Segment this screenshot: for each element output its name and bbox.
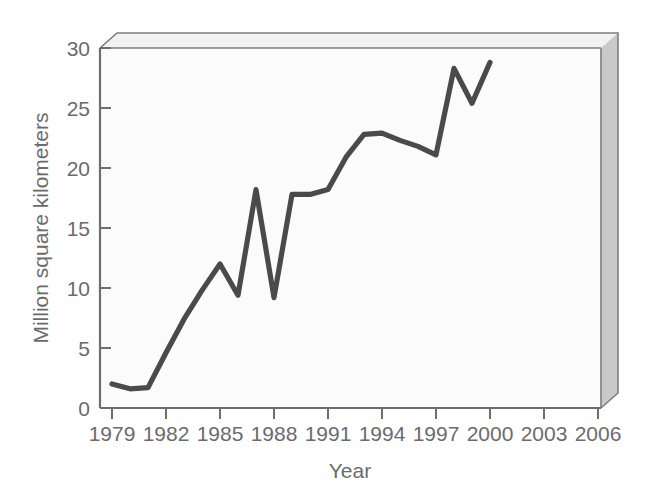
x-tick-label-1979: 1979 [89, 422, 136, 445]
y-axis-tick-labels: 30 25 20 15 10 5 0 [67, 37, 90, 420]
y-tick-label-25: 25 [67, 97, 90, 120]
y-tick-label-15: 15 [67, 217, 90, 240]
y-tick-label-5: 5 [78, 337, 90, 360]
y-tick-label-30: 30 [67, 37, 90, 60]
x-axis-ticks [112, 408, 598, 419]
y-axis-title: Million square kilometers [29, 112, 52, 343]
y-tick-label-20: 20 [67, 157, 90, 180]
y-tick-label-0: 0 [78, 397, 90, 420]
box-top-face [100, 33, 618, 48]
x-tick-label-1985: 1985 [197, 422, 244, 445]
x-tick-label-1997: 1997 [413, 422, 460, 445]
plot-wall [100, 48, 601, 408]
chart-3d-box [100, 33, 618, 408]
y-tick-label-10: 10 [67, 277, 90, 300]
x-tick-label-2000: 2000 [467, 422, 514, 445]
x-tick-label-1991: 1991 [305, 422, 352, 445]
x-tick-label-2006: 2006 [575, 422, 622, 445]
x-axis-title: Year [329, 459, 371, 482]
line-chart-svg: 30 25 20 15 10 5 0 1979 1982 1985 1988 1… [0, 0, 655, 494]
x-tick-label-1994: 1994 [359, 422, 406, 445]
chart-figure: 30 25 20 15 10 5 0 1979 1982 1985 1988 1… [0, 0, 655, 494]
box-side-face [601, 33, 618, 408]
x-tick-label-2003: 2003 [521, 422, 568, 445]
x-axis-tick-labels: 1979 1982 1985 1988 1991 1994 1997 2000 … [89, 422, 622, 445]
x-tick-label-1988: 1988 [251, 422, 298, 445]
x-tick-label-1982: 1982 [143, 422, 190, 445]
